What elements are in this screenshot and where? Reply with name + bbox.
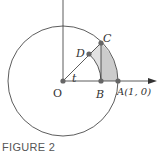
label-o: O: [53, 87, 62, 100]
x-axis-arrow-icon: [148, 78, 157, 84]
label-angle-t: t: [72, 72, 77, 85]
unit-circle-diagram: O B A(1, 0) C D t: [0, 0, 167, 157]
label-d: D: [75, 47, 85, 60]
label-a: A(1, 0): [116, 86, 151, 97]
point-o: [60, 78, 65, 83]
shaded-region: [101, 43, 118, 81]
figure-caption: FIGURE 2: [2, 141, 55, 153]
label-b: B: [95, 88, 104, 101]
point-d: [86, 51, 91, 56]
label-c: C: [103, 32, 112, 45]
point-b: [98, 78, 103, 83]
point-a: [115, 78, 120, 83]
